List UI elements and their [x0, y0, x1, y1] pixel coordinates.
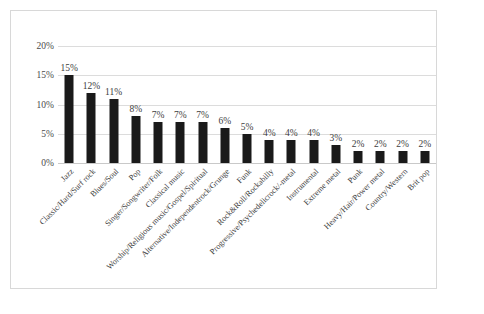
bar-group[interactable]: 4%	[303, 46, 325, 163]
bar-value-label: 5%	[241, 122, 254, 132]
bar-value-label: 2%	[396, 139, 409, 149]
bar-group[interactable]: 7%	[147, 46, 169, 163]
bar-value-label: 8%	[129, 104, 142, 114]
bar-value-label: 2%	[419, 139, 432, 149]
bar[interactable]	[65, 75, 74, 163]
bar-group[interactable]: 6%	[214, 46, 236, 163]
bar-group[interactable]: 12%	[80, 46, 102, 163]
x-axis-label: Funk	[235, 167, 253, 185]
bar-value-label: 2%	[352, 139, 365, 149]
bar-group[interactable]: 2%	[414, 46, 436, 163]
bar-group[interactable]: 4%	[280, 46, 302, 163]
bar[interactable]	[398, 151, 407, 163]
x-axis-label: Jazz	[59, 167, 75, 183]
y-tick-label: 0%	[20, 158, 54, 168]
y-tick-label: 5%	[20, 129, 54, 139]
bar[interactable]	[354, 151, 363, 163]
bar-group[interactable]: 15%	[58, 46, 80, 163]
bar[interactable]	[131, 116, 140, 163]
bar-group[interactable]: 8%	[125, 46, 147, 163]
bar-group[interactable]: 4%	[258, 46, 280, 163]
bar-value-label: 7%	[196, 110, 209, 120]
bar-group[interactable]: 7%	[191, 46, 213, 163]
gridline-0%	[58, 163, 436, 164]
bar[interactable]	[331, 145, 340, 163]
bar[interactable]	[154, 122, 163, 163]
x-axis-label: Worship/Religious music/Gospel/Spiritual	[104, 167, 208, 271]
bar-value-label: 15%	[60, 63, 77, 73]
bar[interactable]	[176, 122, 185, 163]
bar-value-label: 4%	[307, 128, 320, 138]
bar[interactable]	[420, 151, 429, 163]
bar-group[interactable]: 7%	[169, 46, 191, 163]
x-axis-label: Country/Western	[363, 167, 409, 213]
bar-group[interactable]: 5%	[236, 46, 258, 163]
bar[interactable]	[109, 99, 118, 163]
bar-value-label: 4%	[263, 128, 276, 138]
x-axis-label: Brit pop	[406, 167, 432, 193]
bar[interactable]	[309, 140, 318, 163]
bar-group[interactable]: 2%	[347, 46, 369, 163]
bar[interactable]	[87, 93, 96, 163]
bar-group[interactable]: 3%	[325, 46, 347, 163]
bar-value-label: 7%	[174, 110, 187, 120]
bar-group[interactable]: 2%	[369, 46, 391, 163]
y-tick-label: 20%	[20, 41, 54, 51]
y-tick-label: 15%	[20, 70, 54, 80]
x-axis-label: Punk	[346, 167, 364, 185]
bar[interactable]	[220, 128, 229, 163]
bar-value-label: 11%	[105, 87, 122, 97]
bar[interactable]	[376, 151, 385, 163]
y-axis: 0%5%10%15%20%	[11, 46, 54, 163]
chart-frame: 0%5%10%15%20% 15%12%11%8%7%7%7%6%5%4%4%4…	[10, 10, 437, 289]
bar-group[interactable]: 11%	[102, 46, 124, 163]
bar-value-label: 3%	[330, 133, 343, 143]
bar-value-label: 4%	[285, 128, 298, 138]
plot-area: 15%12%11%8%7%7%7%6%5%4%4%4%3%2%2%2%2%	[58, 46, 436, 163]
bar[interactable]	[198, 122, 207, 163]
bar-value-label: 7%	[152, 110, 165, 120]
y-tick-label: 10%	[20, 100, 54, 110]
bar-value-label: 2%	[374, 139, 387, 149]
bar-value-label: 12%	[83, 81, 100, 91]
bar-value-label: 6%	[218, 116, 231, 126]
x-axis-label: Pop	[127, 167, 142, 182]
bar[interactable]	[287, 140, 296, 163]
bar[interactable]	[242, 134, 251, 163]
x-axis-category-labels: JazzClassic/Hard/Surf rockBlues/SoulPopS…	[58, 165, 436, 290]
bar-group[interactable]: 2%	[392, 46, 414, 163]
bar[interactable]	[265, 140, 274, 163]
